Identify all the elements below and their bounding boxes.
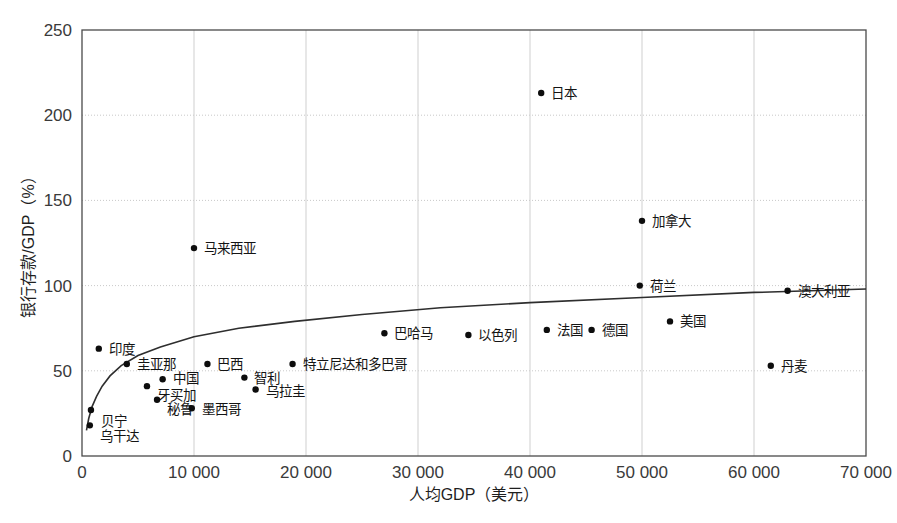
y-axis-title: 银行存款/GDP（%） — [20, 168, 37, 317]
data-point-marker — [538, 90, 544, 96]
data-point-label: 加拿大 — [652, 213, 691, 229]
data-point-label: 特立尼达和多巴哥 — [303, 356, 407, 372]
data-point-label: 以色列 — [478, 327, 517, 343]
data-point — [124, 361, 130, 367]
data-point-marker — [381, 330, 387, 336]
y-tick-label: 200 — [44, 106, 72, 125]
data-point-marker — [154, 397, 160, 403]
data-point — [252, 386, 258, 392]
data-point-label: 马来西亚 — [204, 241, 256, 256]
data-point-label: 荷兰 — [650, 279, 676, 294]
data-point-label: 巴哈马 — [394, 326, 433, 341]
data-point-marker — [667, 318, 673, 324]
data-point-marker — [159, 376, 165, 382]
data-point-marker — [768, 362, 774, 368]
data-point-label: 巴西 — [217, 357, 243, 372]
data-point-label: 乌干达 — [100, 429, 140, 444]
data-point-label: 乌拉圭 — [266, 384, 305, 399]
y-tick-label: 0 — [63, 447, 72, 466]
chart-background — [0, 0, 897, 523]
data-point-label: 墨西哥 — [202, 402, 241, 417]
data-point — [768, 362, 774, 368]
data-point — [159, 376, 165, 382]
data-point — [289, 361, 295, 367]
data-point — [191, 245, 197, 251]
x-tick-label: 60 000 — [728, 463, 780, 482]
x-tick-label: 10 000 — [168, 463, 220, 482]
data-point-marker — [544, 327, 550, 333]
data-point — [588, 327, 594, 333]
data-point — [96, 345, 102, 351]
data-point — [154, 397, 160, 403]
data-point-label: 澳大利亚 — [798, 284, 850, 299]
x-tick-label: 30 000 — [392, 463, 444, 482]
data-point — [639, 218, 645, 224]
x-tick-label: 20 000 — [280, 463, 332, 482]
data-point — [381, 330, 387, 336]
data-point-label: 印度 — [109, 342, 135, 357]
data-point — [667, 318, 673, 324]
data-point-marker — [289, 361, 295, 367]
data-point-label: 法国 — [557, 323, 583, 338]
data-point — [637, 282, 643, 288]
data-point — [465, 332, 471, 338]
chart-svg: 050100150200250 010 00020 00030 00040 00… — [0, 0, 897, 523]
data-point-marker — [241, 374, 247, 380]
data-point-marker — [639, 218, 645, 224]
x-tick-label: 50 000 — [616, 463, 668, 482]
data-point — [88, 407, 94, 413]
data-point-marker — [144, 383, 150, 389]
data-point-marker — [204, 361, 210, 367]
data-point-marker — [637, 282, 643, 288]
data-point-marker — [191, 245, 197, 251]
data-point-label: 丹麦 — [781, 359, 808, 374]
data-point-marker — [96, 345, 102, 351]
data-point — [87, 422, 93, 428]
scatter-chart-figure: 050100150200250 010 00020 00030 00040 00… — [0, 0, 897, 523]
x-tick-label: 40 000 — [504, 463, 556, 482]
x-axis-title: 人均GDP（美元） — [409, 486, 540, 503]
data-point-marker — [124, 361, 130, 367]
y-tick-label: 50 — [53, 362, 72, 381]
y-tick-label: 150 — [44, 191, 72, 210]
data-point-label: 贝宁 — [101, 413, 127, 429]
data-point — [784, 288, 790, 294]
data-point-label: 圭亚那 — [137, 357, 176, 372]
data-point — [144, 383, 150, 389]
data-point — [241, 374, 247, 380]
data-point-marker — [87, 422, 93, 428]
data-point-marker — [88, 407, 94, 413]
data-point-label: 美国 — [680, 314, 706, 329]
data-point-label: 日本 — [551, 86, 578, 101]
data-point-marker — [465, 332, 471, 338]
data-point-marker — [252, 386, 258, 392]
data-point-marker — [189, 405, 195, 411]
data-point-label: 德国 — [602, 323, 628, 338]
data-point — [538, 90, 544, 96]
data-point — [544, 327, 550, 333]
y-tick-label: 250 — [44, 21, 72, 40]
data-point — [189, 405, 195, 411]
y-tick-label: 100 — [44, 277, 72, 296]
data-point — [204, 361, 210, 367]
data-point-marker — [588, 327, 594, 333]
data-point-marker — [784, 288, 790, 294]
data-point-label: 中国 — [173, 371, 199, 386]
x-tick-label: 70 000 — [840, 463, 892, 482]
x-tick-label: 0 — [77, 463, 86, 482]
